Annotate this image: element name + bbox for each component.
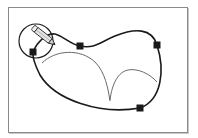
anchor-point-3[interactable]: [154, 42, 161, 49]
bezier-path-diagram: [0, 0, 198, 138]
guide-arc-left: [42, 52, 110, 101]
anchor-point-4[interactable]: [137, 105, 144, 112]
guide-arc-right: [110, 70, 157, 100]
anchor-point-1[interactable]: [30, 49, 37, 56]
pencil-icon[interactable]: [31, 25, 57, 47]
anchor-point-2[interactable]: [77, 43, 84, 50]
